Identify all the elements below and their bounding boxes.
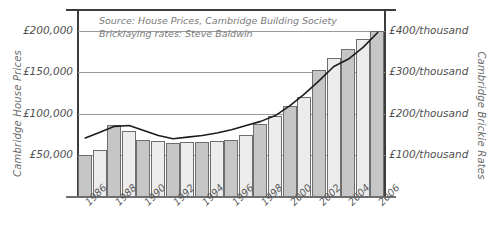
house-price-polyline	[85, 32, 377, 138]
right-tick-label: £100/thousand	[389, 148, 468, 160]
left-tick-label: £200,000	[23, 24, 73, 36]
left-tick-label: £50,000	[30, 148, 73, 160]
right-tick-label: £200/thousand	[389, 107, 468, 119]
left-tick-label: £150,000	[23, 65, 73, 77]
right-tick-label: £400/thousand	[389, 24, 468, 36]
right-tick-label: £300/thousand	[389, 65, 468, 77]
left-axis-title: Cambridge House Prices	[12, 39, 23, 189]
left-tick-label: £100,000	[23, 107, 73, 119]
line-series-house-prices	[78, 10, 385, 197]
right-axis-title: Cambridge Brickie Rates	[476, 31, 487, 201]
